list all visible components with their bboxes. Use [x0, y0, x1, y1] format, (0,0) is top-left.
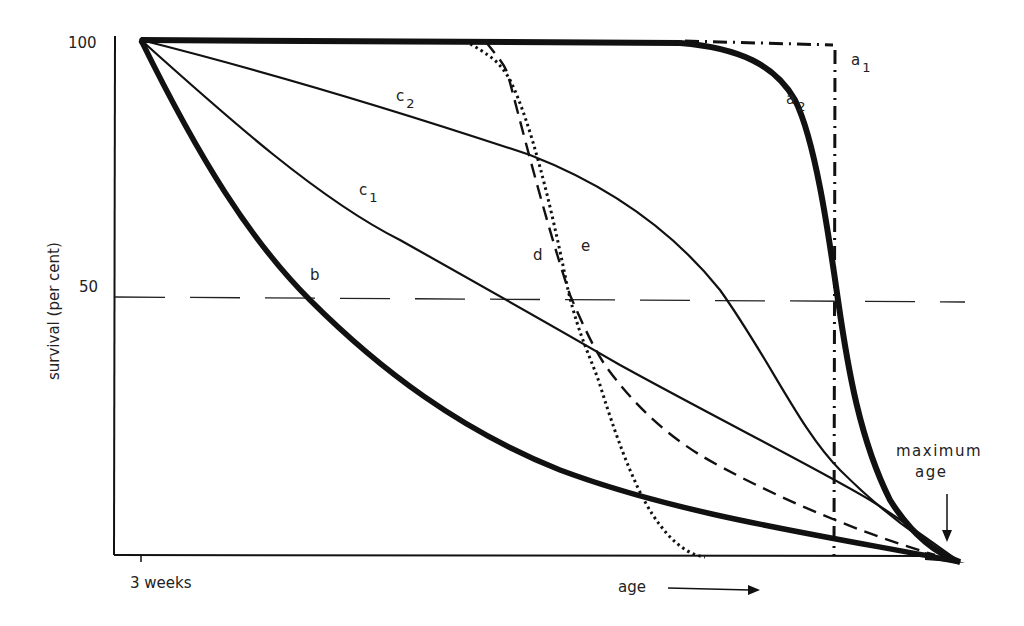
label-a1: a1 [851, 51, 870, 75]
label-d: d [533, 246, 543, 264]
max-age-arrowhead-icon [942, 530, 952, 542]
x-axis-label: age [618, 578, 646, 596]
label-c1: c1 [359, 181, 378, 205]
x-axis [114, 555, 935, 556]
label-b: b [310, 266, 320, 284]
age-arrow-icon [668, 588, 750, 590]
y-axis-label: survival (per cent) [45, 242, 63, 380]
y-axis [114, 36, 115, 555]
curve-d [486, 42, 935, 555]
curve-a2 [141, 40, 960, 562]
label-e: e [581, 237, 590, 255]
survival-curves-chart: 100 50 survival (per cent) 3 weeks age m… [0, 0, 1024, 626]
y-tick-100: 100 [68, 34, 97, 52]
curve-a1 [685, 41, 835, 555]
age-arrowhead-icon [748, 585, 760, 595]
origin-point [139, 37, 147, 45]
y-tick-50: 50 [79, 278, 98, 296]
max-age-label-line2: age [915, 463, 947, 481]
x-start-label: 3 weeks [130, 574, 192, 592]
max-age-label-line1: maximum [896, 442, 982, 460]
label-c2: c2 [396, 87, 415, 111]
